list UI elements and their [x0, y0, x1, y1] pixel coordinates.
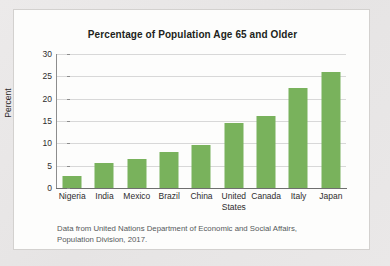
y-axis-tick-label: 15	[30, 116, 52, 126]
bar-slot	[88, 54, 120, 188]
source-caption-line-1: Data from United Nations Department of E…	[57, 224, 357, 235]
chart-panel: Percentage of Population Age 65 and Olde…	[13, 9, 370, 250]
x-axis-line	[56, 188, 347, 189]
y-axis-tick-label: 5	[30, 161, 52, 171]
bar[interactable]	[192, 145, 211, 188]
bar[interactable]	[289, 88, 308, 188]
y-axis-tick-label: 0	[30, 183, 52, 193]
x-axis-tick-labels: NigeriaIndiaMexicoBrazilChinaUnited Stat…	[56, 191, 347, 217]
bar-slot	[218, 54, 250, 188]
y-axis-tick-mark	[67, 188, 70, 189]
y-axis-tick-label: 10	[30, 138, 52, 148]
bar[interactable]	[63, 176, 82, 188]
bar[interactable]	[160, 152, 179, 188]
y-axis-title: Percent	[3, 88, 13, 117]
bar-slot	[121, 54, 153, 188]
y-axis-tick-label: 20	[30, 94, 52, 104]
y-axis-tick-labels: 051015202530	[28, 54, 52, 188]
bar[interactable]	[95, 163, 114, 188]
x-axis-tick-label: Japan	[309, 191, 353, 202]
bar-slot	[315, 54, 347, 188]
y-axis-tick-label: 30	[30, 49, 52, 59]
bar-series	[56, 54, 347, 188]
chart-title: Percentage of Population Age 65 and Olde…	[14, 29, 371, 40]
bar-slot	[185, 54, 217, 188]
source-caption: Data from United Nations Department of E…	[57, 224, 357, 245]
source-caption-line-2: Population Division, 2017.	[57, 235, 357, 246]
bar-slot	[250, 54, 282, 188]
bar-slot	[56, 54, 88, 188]
figure-root: Percentage of Population Age 65 and Olde…	[0, 0, 390, 266]
bar-slot	[282, 54, 314, 188]
bar[interactable]	[224, 123, 243, 188]
bar-slot	[153, 54, 185, 188]
bar[interactable]	[321, 72, 340, 188]
bar[interactable]	[257, 116, 276, 188]
bar[interactable]	[127, 159, 146, 188]
y-axis-tick-label: 25	[30, 71, 52, 81]
